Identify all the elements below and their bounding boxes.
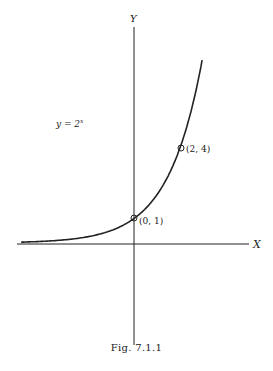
equation-label: y = 2x xyxy=(55,117,84,129)
x-axis-label: X xyxy=(252,238,262,251)
figure-caption: Fig. 7.1.1 xyxy=(0,342,273,353)
figure: X Y (0, 1) (2, 4) y = 2x xyxy=(0,0,273,371)
y-axis-label: Y xyxy=(130,13,138,24)
exponential-curve xyxy=(21,60,202,242)
point-0-1-label: (0, 1) xyxy=(139,216,163,226)
point-2-4-label: (2, 4) xyxy=(186,144,210,154)
